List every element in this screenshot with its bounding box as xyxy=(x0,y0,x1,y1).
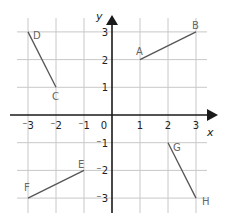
x-tick-label: ⁻1 xyxy=(78,120,90,131)
coordinate-grid-diagram: xy ⁻3⁻2⁻10123321⁻1⁻2⁻3 ABCDEFGH xyxy=(0,0,232,220)
point-labels: ABCDEFGH xyxy=(24,20,210,207)
point-label-g: G xyxy=(173,142,181,153)
y-tick-label: 2 xyxy=(102,55,108,66)
y-axis-label: y xyxy=(95,10,103,23)
point-label-b: B xyxy=(192,20,199,31)
point-label-c: C xyxy=(52,91,59,102)
y-tick-label: 1 xyxy=(102,82,108,93)
x-tick-label: ⁻3 xyxy=(22,120,34,131)
point-label-h: H xyxy=(202,196,210,207)
point-label-d: D xyxy=(33,30,41,41)
point-label-f: F xyxy=(24,182,30,193)
x-tick-label: 0 xyxy=(101,120,107,131)
y-tick-label: ⁻2 xyxy=(96,165,108,176)
point-label-a: A xyxy=(136,46,143,57)
y-tick-label: ⁻1 xyxy=(96,138,108,149)
y-tick-label: ⁻3 xyxy=(96,193,108,204)
x-tick-label: 3 xyxy=(193,120,199,131)
y-axis-arrow-icon xyxy=(106,15,118,25)
axes: xy xyxy=(10,10,218,213)
point-label-e: E xyxy=(78,159,84,170)
x-tick-label: ⁻2 xyxy=(50,120,62,131)
x-tick-label: 1 xyxy=(137,120,143,131)
coordinate-plane: xy ⁻3⁻2⁻10123321⁻1⁻2⁻3 ABCDEFGH xyxy=(0,0,232,220)
x-tick-label: 2 xyxy=(165,120,171,131)
y-tick-label: 3 xyxy=(102,27,108,38)
x-axis-arrow-icon xyxy=(207,109,218,121)
x-axis-label: x xyxy=(206,126,214,139)
